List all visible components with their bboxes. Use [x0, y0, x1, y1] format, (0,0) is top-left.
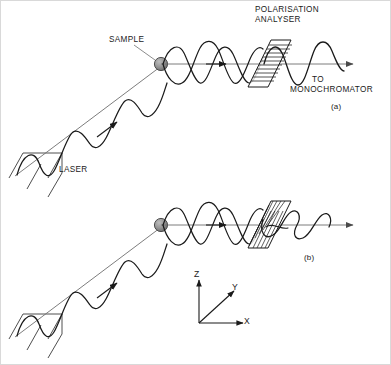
axis-y-label: Y	[232, 282, 238, 292]
figure-root: POLARISATION ANALYSER SAMPLE LASER TO MO…	[0, 0, 391, 365]
polarisation-analyser-label-line2: ANALYSER	[255, 15, 301, 25]
axis-z-label: Z	[194, 269, 199, 279]
to-monochromator-label-line2: MONOCHROMATOR	[290, 85, 373, 95]
polarisation-analyser-label-line1: POLARISATION	[255, 5, 319, 15]
to-monochromator-label-line1: TO	[312, 75, 324, 85]
axis-y-line	[199, 291, 234, 323]
incident-wave-a	[17, 83, 167, 176]
figure-canvas	[1, 1, 391, 365]
incident-wave-b	[17, 244, 167, 337]
sample-leader-line-a	[134, 45, 155, 60]
laser-label: LASER	[59, 165, 88, 175]
axis-x-label: X	[244, 316, 250, 326]
panel-b	[9, 201, 353, 358]
sample-label: SAMPLE	[109, 35, 144, 45]
panel-a-caption: (a)	[331, 102, 341, 112]
polarisation-analyser-b	[248, 201, 291, 248]
panel-b-caption: (b)	[304, 253, 314, 263]
depolarised-wave-a	[163, 41, 263, 84]
depolarised-wave-b	[163, 202, 263, 245]
